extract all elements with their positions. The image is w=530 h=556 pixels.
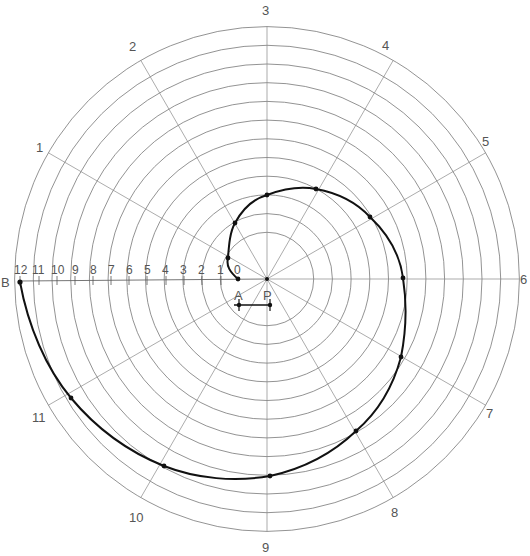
scale-label-0: 0 (234, 263, 241, 277)
scale-label-5: 5 (144, 263, 151, 277)
point-label-p: P (263, 288, 272, 303)
point-label-b: B (1, 275, 10, 290)
spiral-points (17, 187, 405, 479)
scale-label-10: 10 (51, 263, 65, 277)
radial-label-6: 6 (520, 272, 527, 287)
radial-label-3: 3 (262, 3, 269, 18)
radial-label-8: 8 (391, 505, 398, 520)
scale-label-4: 4 (162, 263, 169, 277)
spiral-diagram: 1 2 3 4 5 6 7 8 9 10 11 12 11 10 9 8 7 6… (0, 0, 530, 556)
radial-label-11: 11 (32, 410, 46, 425)
scale-label-8: 8 (90, 263, 97, 277)
radial-label-7: 7 (486, 406, 493, 421)
scale-label-9: 9 (72, 263, 79, 277)
scale-labels: 12 11 10 9 8 7 6 5 4 3 2 1 0 (14, 263, 241, 277)
scale-label-6: 6 (126, 263, 133, 277)
scale-label-7: 7 (108, 263, 115, 277)
radial-label-5: 5 (482, 134, 489, 149)
radial-label-10: 10 (129, 510, 143, 525)
scale-label-2: 2 (198, 263, 205, 277)
scale-label-12: 12 (14, 263, 28, 277)
scale-label-3: 3 (180, 263, 187, 277)
radial-label-9: 9 (262, 540, 269, 555)
scale-label-11: 11 (32, 263, 45, 277)
radial-label-2: 2 (129, 39, 136, 54)
scale-label-1: 1 (217, 263, 224, 277)
radial-label-1: 1 (36, 140, 43, 155)
radial-label-4: 4 (382, 38, 389, 53)
radial-lines (20, 27, 519, 532)
spiral-curve (20, 188, 405, 479)
point-label-a: A (234, 288, 243, 303)
